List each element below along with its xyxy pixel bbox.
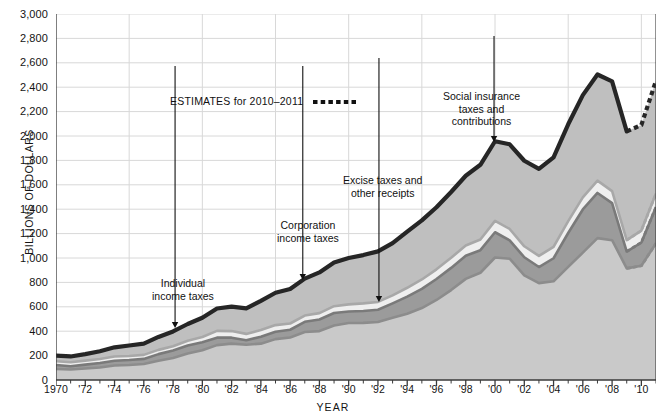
x-tick-label: '96 <box>429 383 443 395</box>
annotation-social-line1: Social insurance <box>443 90 520 103</box>
x-tick-label: '82 <box>225 383 239 395</box>
x-tick-label: '72 <box>78 383 92 395</box>
y-axis-tick-labels: 02004006008001,0001,2001,4001,6001,8002,… <box>2 0 48 420</box>
annotation-individual-line1: Individual <box>152 277 214 290</box>
annotation-individual-line2: income taxes <box>152 290 214 303</box>
annotation-individual-income-taxes: Individual income taxes <box>152 277 214 302</box>
x-axis-tick-labels: 1970'72'74'76'78'80'82'84'86'88'90'92'94… <box>0 383 666 401</box>
y-tick-label: 2,600 <box>4 57 48 68</box>
y-tick-label: 1,600 <box>4 179 48 190</box>
receipts-area-chart <box>56 14 656 406</box>
annotation-excise-line1: Excise taxes and <box>343 174 422 187</box>
y-tick-label: 1,000 <box>4 253 48 264</box>
annotation-social-insurance: Social insurance taxes and contributions <box>443 90 520 128</box>
x-tick-label: '94 <box>400 383 414 395</box>
y-tick-label: 2,800 <box>4 33 48 44</box>
y-tick-label: 200 <box>4 350 48 361</box>
chart-page: BILLIONS OF DOLLARS 02004006008001,0001,… <box>0 0 666 420</box>
y-tick-label: 2,200 <box>4 106 48 117</box>
y-tick-label: 2,400 <box>4 82 48 93</box>
y-tick-label: 400 <box>4 326 48 337</box>
x-tick-label: '10 <box>634 383 648 395</box>
y-tick-label: 600 <box>4 301 48 312</box>
x-tick-label: '00 <box>488 383 502 395</box>
annotation-corporation-income-taxes: Corporation income taxes <box>277 219 339 244</box>
x-tick-label: '74 <box>108 383 122 395</box>
x-tick-label: '80 <box>195 383 209 395</box>
annotation-corporation-line2: income taxes <box>277 232 339 245</box>
x-tick-label: 1970 <box>44 383 68 395</box>
x-tick-label: '90 <box>342 383 356 395</box>
x-tick-label: '78 <box>166 383 180 395</box>
x-tick-label: '98 <box>459 383 473 395</box>
dotted-line-sample <box>312 98 358 106</box>
x-tick-label: '08 <box>605 383 619 395</box>
y-tick-label: 2,000 <box>4 131 48 142</box>
y-tick-label: 800 <box>4 277 48 288</box>
x-tick-label: '84 <box>254 383 268 395</box>
annotation-estimates: ESTIMATES for 2010–2011 <box>170 95 358 107</box>
annotation-corporation-line1: Corporation <box>277 219 339 232</box>
annotation-excise-taxes: Excise taxes and other receipts <box>343 174 422 199</box>
y-tick-label: 1,400 <box>4 204 48 215</box>
x-axis-title: YEAR <box>0 401 666 413</box>
x-tick-label: '92 <box>371 383 385 395</box>
x-tick-label: '88 <box>312 383 326 395</box>
y-tick-label: 3,000 <box>4 9 48 20</box>
x-tick-label: '02 <box>517 383 531 395</box>
x-tick-label: '04 <box>547 383 561 395</box>
y-tick-label: 1,800 <box>4 155 48 166</box>
x-tick-label: '76 <box>137 383 151 395</box>
annotation-social-line3: contributions <box>443 115 520 128</box>
annotation-social-line2: taxes and <box>443 103 520 116</box>
y-tick-label: 1,200 <box>4 228 48 239</box>
annotation-estimates-label: ESTIMATES for 2010–2011 <box>170 95 303 107</box>
x-tick-label: '06 <box>576 383 590 395</box>
annotation-excise-line2: other receipts <box>343 187 422 200</box>
x-tick-label: '86 <box>283 383 297 395</box>
